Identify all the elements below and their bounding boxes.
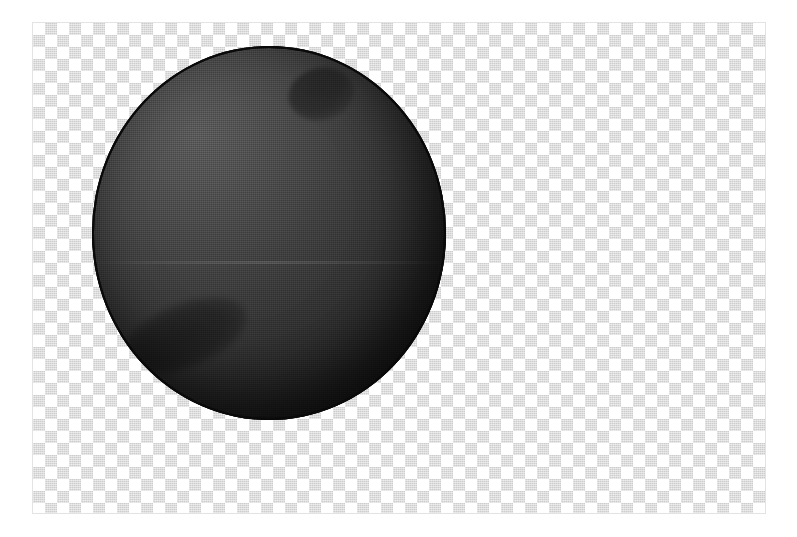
crater-upper-right (283, 61, 360, 127)
sphere-body (92, 46, 446, 420)
shaded-sphere-artwork[interactable] (92, 46, 446, 420)
sphere-equator-band (92, 261, 446, 264)
crater-lower-left (111, 282, 257, 391)
transparency-canvas[interactable] (32, 22, 766, 514)
image-canvas-view (0, 0, 797, 537)
